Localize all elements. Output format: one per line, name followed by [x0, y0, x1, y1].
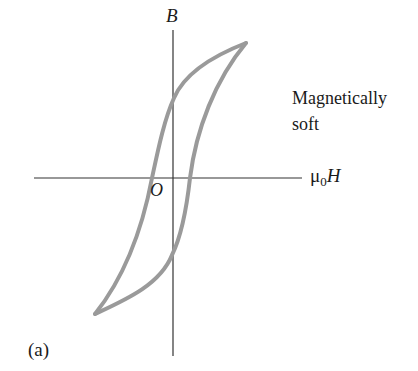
- x-axis-label-mu: μ: [310, 165, 320, 186]
- figure-title-line2: soft: [292, 111, 387, 137]
- figure-title: Magnetically soft: [292, 85, 387, 137]
- y-axis-label: B: [166, 5, 178, 27]
- x-axis-label-var: H: [327, 165, 341, 186]
- figure-title-line1: Magnetically: [292, 85, 387, 111]
- origin-label: O: [150, 180, 163, 201]
- panel-label: (a): [28, 339, 49, 361]
- hysteresis-diagram: [0, 0, 418, 371]
- x-axis-label: μ0H: [310, 165, 340, 190]
